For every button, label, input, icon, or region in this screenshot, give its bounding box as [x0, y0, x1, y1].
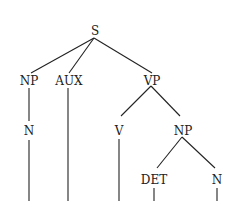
node-det: DET [141, 173, 167, 187]
edge-s-vp [94, 38, 152, 73]
edge-np-det [157, 137, 182, 168]
node-s: S [91, 24, 99, 38]
edge-s-np [31, 38, 94, 73]
node-vp: VP [143, 74, 161, 88]
node-np: NP [20, 74, 39, 88]
node-v: V [114, 124, 124, 138]
syntax-tree: S NP AUX VP N V NP DET N [0, 0, 250, 201]
node-n2: N [212, 173, 223, 187]
node-aux: AUX [54, 74, 83, 88]
node-n: N [24, 124, 35, 138]
edge-vp-v [121, 86, 151, 116]
edge-vp-np [151, 86, 180, 116]
node-np2: NP [174, 124, 193, 138]
edge-np-n [182, 137, 215, 168]
edge-s-aux [69, 38, 94, 73]
